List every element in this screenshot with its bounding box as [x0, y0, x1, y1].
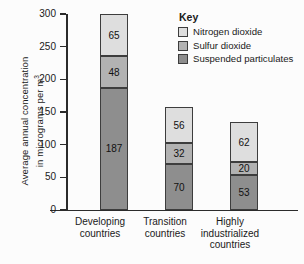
y-axis-title: Average annual concentration in microgra… — [19, 26, 45, 216]
y-tick-mark — [60, 144, 66, 145]
legend-title: Key — [179, 11, 293, 23]
y-tick-mark — [60, 79, 66, 80]
category-label-line: Highly — [184, 216, 276, 228]
category-label-line: industrialized — [184, 228, 276, 240]
bar-segment: 53 — [230, 175, 258, 210]
y-tick-label: 200 — [16, 74, 56, 84]
y-tick-mark — [60, 209, 66, 210]
bar-segment: 48 — [100, 56, 128, 87]
y-tick-mark — [60, 13, 66, 14]
legend-swatch-icon — [178, 41, 188, 51]
y-tick-label: 50 — [16, 172, 56, 182]
y-tick-label: 0 — [16, 205, 56, 215]
bar-segment: 65 — [100, 14, 128, 56]
bar-segment: 70 — [165, 164, 193, 210]
stacked-bar-chart: Average annual concentration in microgra… — [0, 0, 304, 264]
y-tick-label: 150 — [16, 107, 56, 117]
bar-segment: 20 — [230, 162, 258, 175]
legend-item: Nitrogen dioxide — [178, 27, 293, 37]
bar-segment: 32 — [165, 143, 193, 164]
legend-item-label: Sulfur dioxide — [193, 41, 251, 51]
y-tick-label: 250 — [16, 42, 56, 52]
legend-swatch-icon — [178, 54, 188, 64]
category-label: Highlyindustrializedcountries — [184, 216, 276, 251]
legend-swatch-icon — [178, 27, 188, 37]
y-tick-label: 100 — [16, 140, 56, 150]
legend-item: Suspended particulates — [178, 54, 293, 64]
bar-segment: 56 — [165, 107, 193, 144]
y-tick-mark — [60, 177, 66, 178]
legend-rows: Nitrogen dioxideSulfur dioxideSuspended … — [178, 27, 293, 64]
legend-item-label: Nitrogen dioxide — [193, 27, 262, 37]
y-tick-mark — [60, 46, 66, 47]
legend-item: Sulfur dioxide — [178, 41, 293, 51]
legend: Key Nitrogen dioxideSulfur dioxideSuspen… — [178, 11, 293, 68]
bar-segment: 187 — [100, 88, 128, 210]
y-axis-line — [66, 14, 68, 211]
legend-item-label: Suspended particulates — [193, 54, 293, 64]
y-tick-label: 300 — [16, 9, 56, 19]
category-label-line: countries — [184, 239, 276, 251]
y-axis-title-line2: in micrograms per m3 — [30, 26, 45, 216]
bar-segment: 62 — [230, 122, 258, 163]
y-tick-mark — [60, 111, 66, 112]
